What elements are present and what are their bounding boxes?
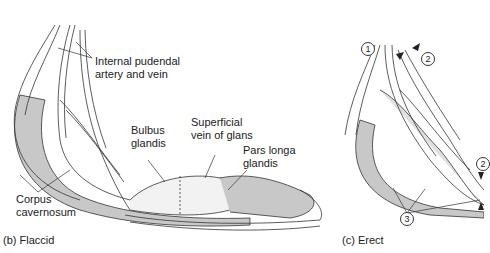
marker-2-top: 2 (421, 52, 435, 66)
label-pars-longa: Pars longa glandis (243, 144, 296, 170)
marker-3: 3 (400, 212, 414, 226)
caption-erect: (c) Erect (342, 234, 384, 246)
label-bulbus-glandis: Bulbus glandis (131, 124, 166, 150)
caption-flaccid: (b) Flaccid (3, 234, 54, 246)
marker-2-right: 2 (476, 157, 490, 171)
label-superficial-vein: Superficial vein of glans (191, 116, 253, 142)
label-internal-pudendal: Internal pudendal artery and vein (95, 55, 180, 81)
label-corpus-cavernosum: Corpus cavernosum (16, 193, 76, 219)
erect-illustration (345, 45, 484, 218)
marker-1: 1 (361, 42, 375, 56)
